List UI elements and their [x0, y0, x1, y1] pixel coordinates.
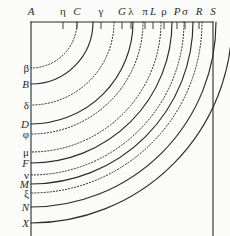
- top-label-2: C: [73, 6, 80, 17]
- left-label-10: N: [14, 202, 29, 213]
- left-label-0: β: [14, 63, 29, 74]
- arc-M: [31, 22, 193, 184]
- arc-F: [31, 22, 172, 163]
- top-label-6: π: [142, 6, 148, 17]
- arc-group: [31, 22, 230, 223]
- arc-beta: [31, 22, 77, 68]
- arc-B: [31, 22, 93, 84]
- figure-container: AηCγGλπLρPσRS βBδDφμFνMξNX: [0, 0, 230, 236]
- top-label-8: ρ: [161, 6, 167, 17]
- arc-delta: [31, 22, 114, 105]
- top-label-9: P: [174, 6, 181, 17]
- left-label-4: φ: [14, 129, 29, 140]
- left-label-11: X: [14, 218, 29, 229]
- top-label-4: G: [118, 6, 126, 17]
- arc-xi: [31, 22, 202, 193]
- top-label-12: S: [210, 6, 216, 17]
- top-label-1: η: [60, 6, 66, 17]
- top-label-11: R: [196, 6, 203, 17]
- top-label-7: L: [150, 6, 156, 17]
- left-label-9: ξ: [14, 188, 29, 199]
- left-label-6: F: [14, 158, 29, 169]
- arc-D: [31, 22, 133, 124]
- top-label-5: λ: [128, 6, 133, 17]
- top-label-0: A: [28, 6, 35, 17]
- arc-nu: [31, 22, 184, 175]
- top-label-3: γ: [99, 6, 104, 17]
- top-label-10: σ: [182, 6, 188, 17]
- left-label-2: δ: [14, 100, 29, 111]
- diagram-canvas: [0, 0, 230, 236]
- arc-phi: [31, 22, 143, 134]
- left-label-1: B: [14, 79, 29, 90]
- tick-mark-group: [63, 22, 199, 29]
- arc-N: [31, 22, 216, 207]
